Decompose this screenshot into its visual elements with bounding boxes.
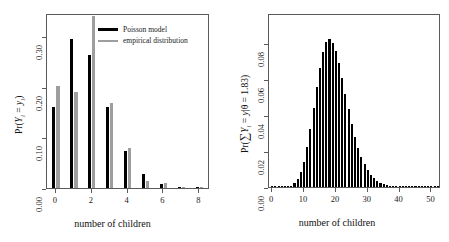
y-axis-tick-label: 0.08 bbox=[256, 43, 266, 76]
bar-predictive-sum bbox=[303, 162, 305, 187]
bar-predictive-sum bbox=[313, 108, 315, 187]
bar-empirical-distribution bbox=[146, 181, 149, 188]
bar-predictive-sum bbox=[408, 186, 410, 187]
x-axis-tick-label: 0 bbox=[256, 194, 286, 204]
bar-poisson-model bbox=[88, 55, 91, 188]
x-axis-tick-label: 6 bbox=[147, 195, 177, 205]
x-axis-tick bbox=[198, 189, 199, 193]
left-panel: Poisson model empirical distribution Pr(… bbox=[0, 0, 225, 242]
legend: Poisson model empirical distribution bbox=[98, 24, 188, 46]
right-panel: Pr(∑Yi = y|θ = 1.83) number of children … bbox=[225, 0, 449, 242]
bar-poisson-model bbox=[160, 184, 163, 188]
bar-predictive-sum bbox=[344, 94, 346, 187]
bar-empirical-distribution bbox=[110, 103, 113, 188]
x-axis-tick-label: 8 bbox=[183, 195, 213, 205]
bar-poisson-model bbox=[178, 187, 181, 188]
bar-predictive-sum bbox=[284, 186, 286, 187]
y-axis-tick-label: 0.20 bbox=[34, 87, 44, 120]
bar-predictive-sum bbox=[274, 186, 276, 187]
x-axis-tick bbox=[162, 189, 163, 193]
statistical-figure: Poisson model empirical distribution Pr(… bbox=[0, 0, 449, 242]
bar-predictive-sum bbox=[309, 129, 311, 187]
bar-predictive-sum bbox=[290, 186, 292, 187]
bar-predictive-sum bbox=[430, 186, 432, 187]
bar-predictive-sum bbox=[427, 186, 429, 187]
y-axis-tick-label: 0.04 bbox=[256, 115, 266, 148]
right-plot-area bbox=[269, 15, 439, 187]
bar-predictive-sum bbox=[367, 170, 369, 187]
bar-predictive-sum bbox=[373, 178, 375, 187]
legend-item-model: Poisson model bbox=[98, 24, 188, 35]
x-axis-tick-label: 2 bbox=[76, 195, 106, 205]
bar-predictive-sum bbox=[338, 63, 340, 187]
bar-empirical-distribution bbox=[92, 16, 95, 188]
bar-predictive-sum bbox=[281, 186, 283, 187]
bar-predictive-sum bbox=[411, 186, 413, 187]
bar-predictive-sum bbox=[379, 183, 381, 187]
bar-predictive-sum bbox=[325, 42, 327, 187]
bar-predictive-sum bbox=[332, 43, 334, 187]
bar-predictive-sum bbox=[360, 157, 362, 187]
x-axis-tick-label: 0 bbox=[40, 195, 70, 205]
y-axis-tick-label: 0.30 bbox=[34, 36, 44, 69]
x-axis-tick bbox=[303, 188, 304, 192]
bar-poisson-model bbox=[52, 107, 55, 188]
bar-predictive-sum bbox=[293, 183, 295, 187]
bar-empirical-distribution bbox=[182, 187, 185, 188]
bar-predictive-sum bbox=[271, 186, 273, 187]
x-axis-tick bbox=[55, 189, 56, 193]
x-axis-tick bbox=[430, 188, 431, 192]
bar-predictive-sum bbox=[357, 148, 359, 187]
bar-predictive-sum bbox=[364, 164, 366, 187]
legend-swatch-empirical-icon bbox=[98, 40, 118, 42]
x-axis-tick-label: 4 bbox=[112, 195, 142, 205]
legend-label-empirical: empirical distribution bbox=[123, 36, 188, 45]
bar-predictive-sum bbox=[316, 87, 318, 187]
bar-predictive-sum bbox=[348, 109, 350, 187]
bar-predictive-sum bbox=[414, 186, 416, 187]
x-axis-tick bbox=[127, 189, 128, 193]
legend-item-empirical: empirical distribution bbox=[98, 35, 188, 46]
y-axis-tick-label: 0.06 bbox=[256, 79, 266, 112]
bar-predictive-sum bbox=[421, 186, 423, 187]
bar-predictive-sum bbox=[328, 39, 330, 187]
bar-empirical-distribution bbox=[74, 92, 77, 188]
x-axis-tick bbox=[271, 188, 272, 192]
legend-label-model: Poisson model bbox=[123, 25, 167, 34]
bar-predictive-sum bbox=[287, 186, 289, 187]
bar-predictive-sum bbox=[354, 137, 356, 187]
bar-predictive-sum bbox=[437, 186, 439, 187]
x-axis-tick-label: 40 bbox=[384, 194, 414, 204]
bar-predictive-sum bbox=[389, 186, 391, 187]
bar-predictive-sum bbox=[399, 186, 401, 187]
bar-predictive-sum bbox=[341, 78, 343, 187]
bar-predictive-sum bbox=[335, 51, 337, 187]
bar-predictive-sum bbox=[383, 184, 385, 187]
bar-predictive-sum bbox=[376, 181, 378, 187]
bar-predictive-sum bbox=[434, 186, 436, 187]
bar-predictive-sum bbox=[278, 186, 280, 187]
bar-poisson-model bbox=[106, 107, 109, 188]
bar-poisson-model bbox=[142, 174, 145, 188]
bar-predictive-sum bbox=[370, 175, 372, 187]
x-axis-tick-label: 10 bbox=[288, 194, 318, 204]
x-axis-tick bbox=[367, 188, 368, 192]
right-plot-box bbox=[268, 14, 440, 188]
bar-empirical-distribution bbox=[128, 148, 131, 188]
x-axis-tick-label: 50 bbox=[415, 194, 445, 204]
x-axis-tick-label: 30 bbox=[352, 194, 382, 204]
bar-predictive-sum bbox=[351, 124, 353, 187]
bar-empirical-distribution bbox=[200, 187, 203, 188]
bar-predictive-sum bbox=[405, 186, 407, 187]
x-axis-tick bbox=[399, 188, 400, 192]
bar-poisson-model bbox=[196, 187, 199, 188]
bar-predictive-sum bbox=[306, 147, 308, 187]
right-y-axis-title: Pr(∑Yi = y|θ = 1.83) bbox=[237, 75, 253, 153]
bar-predictive-sum bbox=[386, 185, 388, 187]
y-axis-tick-label: 0.10 bbox=[34, 137, 44, 170]
bar-poisson-model bbox=[124, 151, 127, 188]
bar-predictive-sum bbox=[424, 186, 426, 187]
legend-swatch-model-icon bbox=[98, 28, 118, 31]
bar-predictive-sum bbox=[418, 186, 420, 187]
bar-predictive-sum bbox=[402, 186, 404, 187]
